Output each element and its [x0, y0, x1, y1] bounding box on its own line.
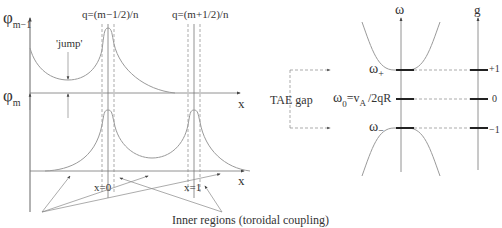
- phi-m-minus-1-label: φm−1: [3, 8, 31, 30]
- phi-m-curve: [45, 110, 250, 171]
- phi-m-label: φm: [3, 86, 21, 108]
- g-minus-label: −1: [489, 124, 500, 135]
- omega-plus-label: ω+: [369, 61, 384, 79]
- tae-gap-label: TAE gap: [270, 93, 313, 107]
- phi-m-minus-1-curve: [30, 28, 175, 93]
- outer-region-pointer: [42, 174, 220, 212]
- x1-label: x=1: [184, 181, 201, 193]
- tae-gap-bracket: TAE gap: [270, 70, 330, 128]
- inner-region-pointer: [205, 186, 222, 212]
- g-plus-label: +1: [489, 63, 500, 74]
- q-label-right: q=(m+1/2)/n: [172, 8, 229, 21]
- omega-zero-label: ω0=vA/2qR: [333, 90, 391, 109]
- left-panel: φm−1 φm x x q=(m−1/2)/n q=(m+1/2)/n 'jum…: [3, 8, 329, 227]
- x-axis-lower-label: x: [238, 173, 245, 188]
- omega-axis-label: ω: [395, 2, 404, 17]
- g-axis-label: g: [474, 2, 481, 17]
- q-label-left: q=(m−1/2)/n: [82, 8, 139, 21]
- inner-regions-label: Inner regions (toroidal coupling): [172, 213, 329, 227]
- x-axis-upper-label: x: [238, 96, 245, 111]
- omega-minus-label: ω−: [369, 119, 384, 136]
- right-panel: ω g ω+ ω0=vA/2qR ω− +1 0 −1: [333, 2, 500, 176]
- inner-region-pointer: [120, 178, 222, 212]
- jump-label: 'jump': [56, 37, 83, 49]
- g-zero-label: 0: [492, 93, 497, 104]
- tae-gap-diagram: φm−1 φm x x q=(m−1/2)/n q=(m+1/2)/n 'jum…: [0, 0, 502, 228]
